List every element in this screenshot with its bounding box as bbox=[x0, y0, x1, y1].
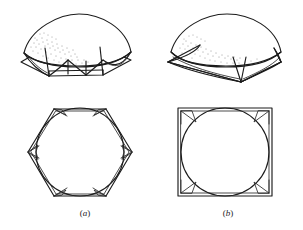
hex-dome-shell bbox=[24, 14, 131, 66]
sq-plan-outline-inner bbox=[181, 111, 269, 193]
panel-a-perspective bbox=[21, 14, 131, 76]
sq-dome-shell bbox=[171, 14, 281, 66]
caption-a: (a) bbox=[80, 208, 91, 218]
caption-b: (b) bbox=[223, 208, 234, 218]
hex-plan-outline bbox=[28, 109, 132, 196]
sq-plan-outline bbox=[178, 108, 272, 196]
panel-b-plan bbox=[178, 108, 272, 196]
hex-plan-pendentives bbox=[28, 109, 132, 196]
figure-canvas: (a) (b) bbox=[0, 0, 303, 230]
panel-a-plan bbox=[28, 108, 132, 196]
panel-b-perspective bbox=[168, 14, 281, 82]
hex-plan-circle bbox=[36, 108, 124, 196]
sq-plan-pendentives bbox=[181, 111, 269, 193]
